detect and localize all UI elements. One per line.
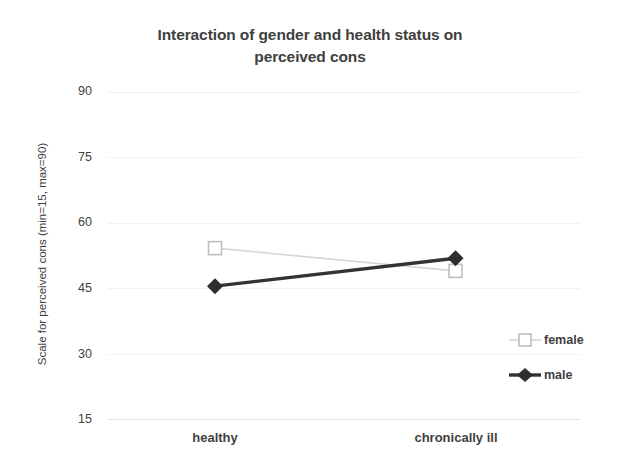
y-tick-label-45: 45 [56, 281, 92, 295]
legend-item-female: female [508, 330, 616, 365]
legend-item-male: male [508, 365, 616, 400]
y-axis-title: Scale for perceived cons (min=15, max=90… [36, 94, 48, 414]
gridline-90 [108, 92, 580, 93]
y-tick-label-75: 75 [56, 150, 92, 164]
chart-title: Interaction of gender and health status … [90, 24, 530, 68]
y-tick-label-90: 90 [56, 84, 92, 98]
y-tick-label-15: 15 [56, 412, 92, 426]
legend-label-female: female [544, 333, 584, 347]
y-tick-label-30: 30 [56, 347, 92, 361]
y-tick-label-60: 60 [56, 215, 92, 229]
gridline-15 [108, 419, 580, 420]
chart-legend: female male [508, 330, 616, 400]
gridline-45 [108, 288, 580, 289]
x-tick-label-healthy: healthy [115, 430, 315, 445]
chart-container: Interaction of gender and health status … [0, 0, 619, 476]
chart-title-line-1: Interaction of gender and health status … [90, 24, 530, 46]
male-legend-swatch-icon [508, 365, 542, 385]
gridline-75 [108, 157, 580, 158]
legend-label-male: male [544, 368, 573, 382]
chart-title-line-2: perceived cons [90, 46, 530, 68]
x-tick-label-chronically-ill: chronically ill [356, 430, 556, 445]
female-legend-swatch-icon [508, 330, 542, 350]
gridline-60 [108, 223, 580, 224]
